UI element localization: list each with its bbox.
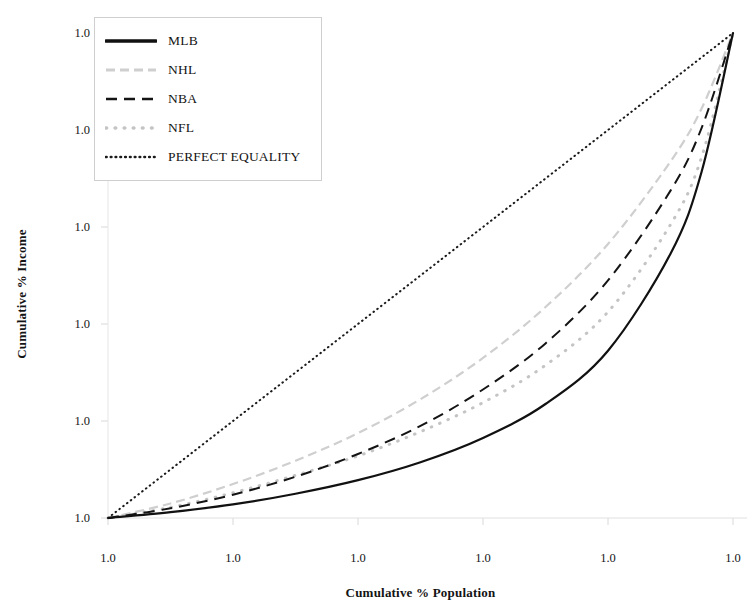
legend-swatch-icon (105, 34, 157, 48)
legend-item-nhl: NHL (105, 55, 311, 84)
legend-label: NBA (168, 91, 197, 107)
legend-swatch-icon (105, 92, 157, 106)
lorenz-curve-figure: 1.01.01.01.01.01.0 1.01.01.01.01.01.0 Cu… (0, 0, 750, 610)
legend-item-mlb: MLB (105, 26, 311, 55)
legend-item-perfect-equality: PERFECT EQUALITY (105, 142, 311, 171)
legend-item-nfl: NFL (105, 113, 311, 142)
legend-label: NHL (168, 62, 196, 78)
legend-label: NFL (168, 120, 194, 136)
legend-label: PERFECT EQUALITY (168, 149, 300, 165)
legend-label: MLB (168, 33, 198, 49)
legend-swatch-icon (105, 121, 157, 135)
legend-swatch-icon (105, 63, 157, 77)
legend-item-nba: NBA (105, 84, 311, 113)
legend: MLBNHLNBANFLPERFECT EQUALITY (94, 17, 322, 181)
legend-swatch-icon (105, 150, 157, 164)
